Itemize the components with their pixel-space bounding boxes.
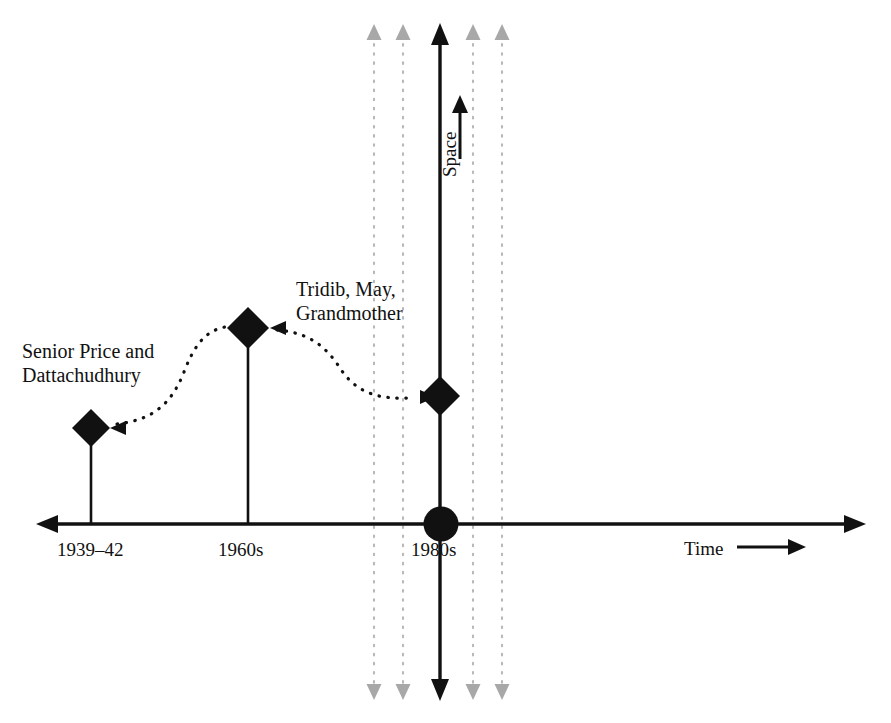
time-axis-label: Time bbox=[684, 537, 723, 560]
caption-tridib-line1: Tridib, May, bbox=[296, 278, 396, 300]
time-label-arrow-head bbox=[788, 539, 806, 555]
guide-arrow-up-4 bbox=[495, 24, 510, 40]
space-axis-label: Space bbox=[438, 132, 461, 177]
guide-arrow-up-2 bbox=[396, 24, 411, 40]
guide-arrow-down-1 bbox=[367, 684, 382, 700]
connection-1960-to-1980 bbox=[270, 321, 436, 404]
caption-tridib-may-grandmother: Tridib, May,Grandmother bbox=[296, 277, 403, 326]
time-label-arrow bbox=[737, 539, 806, 555]
guide-arrow-up-3 bbox=[466, 24, 481, 40]
space-label-arrow-head bbox=[452, 95, 468, 113]
caption-senior-price: Senior Price andDattachudhury bbox=[22, 339, 154, 388]
guide-arrow-up-1 bbox=[367, 24, 382, 40]
space-axis bbox=[431, 23, 449, 701]
connection-arrow-left-2 bbox=[270, 321, 286, 335]
time-axis-arrow-right bbox=[844, 515, 866, 533]
guide-arrow-down-2 bbox=[396, 684, 411, 700]
connection-path-2 bbox=[277, 330, 408, 398]
time-axis-arrow-left bbox=[36, 515, 58, 533]
space-axis-arrow-down bbox=[431, 679, 449, 701]
event-marker-1980s-diamond[interactable] bbox=[420, 376, 460, 416]
guide-arrow-down-3 bbox=[466, 684, 481, 700]
event-marker-1960s[interactable] bbox=[227, 307, 269, 349]
time-axis-tick-label-1960s: 1960s bbox=[218, 538, 263, 561]
time-axis-tick-label-1939-42: 1939–42 bbox=[57, 538, 124, 561]
caption-senior-price-line2: Dattachudhury bbox=[22, 364, 141, 386]
space-axis-arrow-up bbox=[431, 23, 449, 45]
caption-tridib-line2: Grandmother bbox=[296, 302, 403, 324]
caption-senior-price-line1: Senior Price and bbox=[22, 340, 154, 362]
space-time-figure: Senior Price andDattachudhury Tridib, Ma… bbox=[0, 0, 891, 723]
event-marker-1939-42[interactable] bbox=[72, 409, 110, 447]
guide-arrow-down-4 bbox=[495, 684, 510, 700]
event-marker-1980s-origin[interactable] bbox=[424, 507, 459, 542]
time-axis-tick-label-1980s: 1980s bbox=[411, 538, 456, 561]
